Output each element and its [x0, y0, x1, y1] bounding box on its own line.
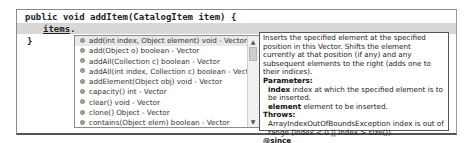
items-identifier: items [43, 24, 70, 34]
javadoc-popup: Inserts the specified element at the spe… [259, 32, 449, 131]
dot-operator: . [70, 24, 75, 34]
completion-item-label: addAll(Collection c) boolean - Vector [89, 57, 220, 66]
completion-item-label: contains(Object elem) boolean - Vector [89, 118, 230, 127]
param-desc: element to be inserted. [301, 102, 388, 111]
param-desc: index at which the specified element is … [268, 85, 443, 103]
method-icon [80, 58, 85, 63]
completion-item[interactable]: add(Object o) boolean - Vector [75, 46, 248, 56]
completion-item-label: clear() void - Vector [89, 98, 160, 107]
completion-item[interactable]: addElement(Object obj) void - Vector [75, 77, 248, 87]
method-icon [80, 38, 85, 43]
completion-item[interactable]: addAll(Collection c) boolean - Vector [75, 57, 248, 67]
completion-item-label: clone() Object - Vector [89, 108, 170, 117]
scroll-up-arrow-icon[interactable]: ▲ [248, 37, 258, 46]
method-icon [80, 110, 85, 115]
completion-item[interactable]: clone() Object - Vector [75, 108, 248, 118]
completion-item[interactable]: add(int index, Object element) void - Ve… [75, 36, 248, 46]
method-icon [80, 89, 85, 94]
param-index: index index at which the specified eleme… [263, 86, 445, 103]
scrollbar-thumb[interactable] [249, 47, 257, 61]
code-line-method-signature: public void addItem(CatalogItem item) { [25, 12, 236, 22]
completion-item[interactable]: capacity() int - Vector [75, 87, 248, 97]
method-icon [80, 99, 85, 104]
method-icon [80, 48, 85, 53]
completion-item-label: add(Object o) boolean - Vector [89, 46, 199, 55]
javadoc-description: Inserts the specified element at the spe… [263, 34, 445, 77]
completion-item[interactable]: clear() void - Vector [75, 98, 248, 108]
code-completion-popup: add(int index, Object element) void - Ve… [74, 35, 260, 128]
code-editor[interactable]: public void addItem(CatalogItem item) { … [16, 9, 457, 135]
method-icon [80, 120, 85, 125]
completion-item[interactable]: addAll(int index, Collection c) boolean … [75, 67, 248, 77]
completion-scrollbar[interactable]: ▲ ▼ [247, 36, 259, 127]
throws-text: ArrayIndexOutOfBoundsException index is … [263, 120, 445, 137]
completion-item-label: addAll(int index, Collection c) boolean … [89, 67, 256, 76]
code-line-closing-brace: } [27, 36, 32, 46]
method-icon [80, 68, 85, 73]
method-icon [80, 79, 85, 84]
completion-item-label: capacity() int - Vector [89, 87, 167, 96]
code-line-current[interactable]: items. [43, 24, 76, 34]
completion-list[interactable]: add(int index, Object element) void - Ve… [75, 36, 248, 127]
since-heading: @since [263, 137, 445, 143]
completion-item-label: add(int index, Object element) void - Ve… [89, 36, 247, 45]
scroll-down-arrow-icon[interactable]: ▼ [248, 117, 258, 126]
completion-item[interactable]: contains(Object elem) boolean - Vector [75, 118, 248, 128]
completion-item-label: addElement(Object obj) void - Vector [89, 77, 222, 86]
